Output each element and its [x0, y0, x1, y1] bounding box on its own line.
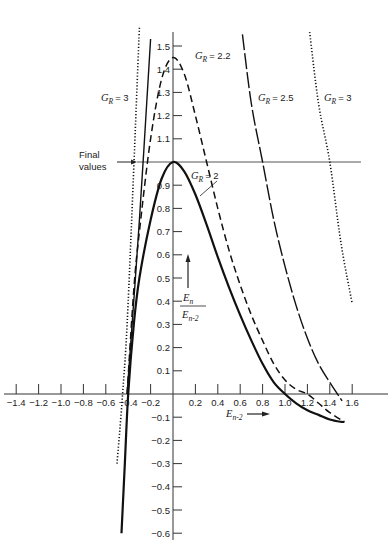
x-tick-label: −0.2	[141, 397, 160, 408]
svg-text:GR= 2.2: GR= 2.2	[195, 50, 231, 64]
y-tick-label: 1.1	[157, 133, 170, 144]
x-tick-label: −0.6	[96, 397, 115, 408]
y-tick-label: 1.5	[157, 41, 170, 52]
y-tick-label: −0.3	[151, 458, 170, 469]
label-gr-3-left: GR= 3	[101, 92, 129, 106]
svg-text:En-2: En-2	[225, 408, 243, 422]
y-axis-label: En En-2	[180, 254, 206, 323]
x-tick-label: 1.4	[323, 397, 336, 408]
svg-text:GR= 3: GR= 3	[324, 92, 352, 106]
axes: −1.4−1.2−1.0−0.8−0.6−0.4−0.20.20.40.60.8…	[4, 32, 388, 540]
svg-text:GR= 2: GR= 2	[191, 170, 219, 184]
y-tick-label: 0.8	[157, 203, 170, 214]
x-tick-label: −1.0	[52, 397, 71, 408]
curve-g-r-2-5-left-branch	[127, 39, 151, 394]
x-tick-label: −1.4	[7, 397, 26, 408]
y-tick-label: 0.6	[157, 249, 170, 260]
svg-text:GR= 2.5: GR= 2.5	[258, 92, 294, 106]
y-tick-label: −0.2	[151, 435, 170, 446]
curve-g-r-2	[121, 162, 344, 533]
final-values-arrow	[117, 160, 137, 165]
curve-g-r-2-5	[242, 34, 342, 401]
label-gr-2-5: GR= 2.5	[258, 92, 294, 106]
y-tick-label: 0.1	[157, 365, 170, 376]
y-tick-label: 0.2	[157, 342, 170, 353]
x-tick-label: −1.2	[29, 397, 48, 408]
y-tick-label: 1.2	[157, 110, 170, 121]
svg-text:GR= 3: GR= 3	[101, 92, 129, 106]
svg-text:En-2: En-2	[181, 309, 199, 323]
final-values-label-line1: Final	[79, 149, 100, 160]
label-gr-2-2: GR= 2.2	[195, 50, 231, 64]
x-tick-label: 0.8	[256, 397, 269, 408]
y-tick-label: 0.7	[157, 226, 170, 237]
chart-canvas: −1.4−1.2−1.0−0.8−0.6−0.4−0.20.20.40.60.8…	[0, 0, 388, 549]
y-tick-label: −0.1	[151, 412, 170, 423]
label-gr-3-right: GR= 3	[324, 92, 352, 106]
svg-text:En: En	[182, 292, 193, 306]
x-tick-label: 1.6	[346, 397, 359, 408]
final-values-label-line2: values	[79, 161, 107, 172]
y-tick-label: 0.4	[157, 296, 170, 307]
x-tick-label: 0.6	[234, 397, 247, 408]
y-tick-label: −0.4	[151, 481, 170, 492]
y-tick-label: −0.5	[151, 505, 170, 516]
x-tick-label: −0.8	[74, 397, 93, 408]
x-tick-label: 0.4	[211, 397, 224, 408]
y-tick-label: 0.5	[157, 273, 170, 284]
x-tick-label: 0.2	[189, 397, 202, 408]
curve-g-r-3	[310, 32, 353, 303]
chart-labels: Final values GR= 3 GR= 2.2 GR= 2.5 GR= 3…	[79, 50, 352, 422]
x-tick-label: 1.2	[301, 397, 314, 408]
x-axis-label: En-2	[225, 408, 270, 422]
y-tick-label: 0.3	[157, 319, 170, 330]
y-tick-label: −0.6	[151, 528, 170, 539]
